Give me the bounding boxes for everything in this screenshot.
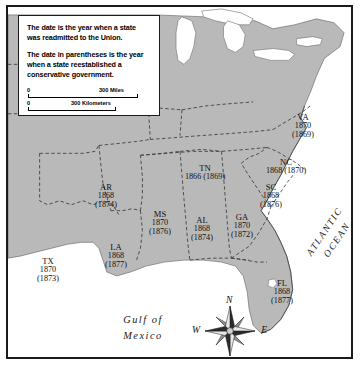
state-conservative-year: (1876) xyxy=(245,201,297,210)
state-label-nc: NC1868 (1870) xyxy=(248,158,324,176)
state-conservative-year: (1877) xyxy=(90,261,142,270)
scale-miles-label: 300 Miles xyxy=(99,87,124,93)
state-dates: 1868 (1870) xyxy=(248,167,324,176)
state-conservative-year: (1873) xyxy=(22,275,74,284)
gulf-line-2: Mexico xyxy=(100,328,186,344)
state-conservative-year: (1869) xyxy=(277,131,329,140)
state-dates: 1866 (1869) xyxy=(167,173,243,182)
compass-west-label: W xyxy=(192,324,200,335)
state-label-tx: TX1870(1873) xyxy=(22,257,74,283)
state-label-ar: AR1868(1874) xyxy=(80,183,132,209)
scale-miles-zero: 0 xyxy=(27,87,30,93)
scale-km-label: 300 Kilometers xyxy=(71,100,111,106)
lake-ontario xyxy=(297,37,323,47)
gulf-of-mexico-label: Gulf of Mexico xyxy=(100,312,186,343)
scale-km-zero: 0 xyxy=(27,100,30,106)
scale-kilometers: 0 300 Kilometers xyxy=(27,100,151,113)
map-legend: The date is the year when a state was re… xyxy=(18,15,160,116)
scale-bars: 0 300 Miles 0 300 Kilometers xyxy=(27,87,151,113)
state-label-ga: GA1870(1872) xyxy=(216,213,268,239)
gulf-line-1: Gulf of xyxy=(100,312,186,328)
compass-rose: N S E W xyxy=(194,295,266,359)
compass-south-label: S xyxy=(227,358,232,359)
scale-km-bar xyxy=(28,107,116,111)
compass-north-label: N xyxy=(226,294,232,305)
legend-paragraph-2: The date in parentheses is the year when… xyxy=(27,50,151,80)
state-label-la: LA1868(1877) xyxy=(90,243,142,269)
scale-miles: 0 300 Miles xyxy=(27,87,151,100)
scale-miles-bar xyxy=(28,94,138,98)
state-conservative-year: (1872) xyxy=(216,231,268,240)
state-label-tn: TN1866 (1869) xyxy=(167,164,243,182)
compass-east-label: E xyxy=(261,324,267,335)
state-label-va: VA1870(1869) xyxy=(277,113,329,139)
map-frame: The date is the year when a state was re… xyxy=(6,5,353,359)
legend-paragraph-1: The date is the year when a state was re… xyxy=(27,23,151,43)
state-label-sc: SC1868(1876) xyxy=(245,183,297,209)
state-conservative-year: (1874) xyxy=(80,201,132,210)
